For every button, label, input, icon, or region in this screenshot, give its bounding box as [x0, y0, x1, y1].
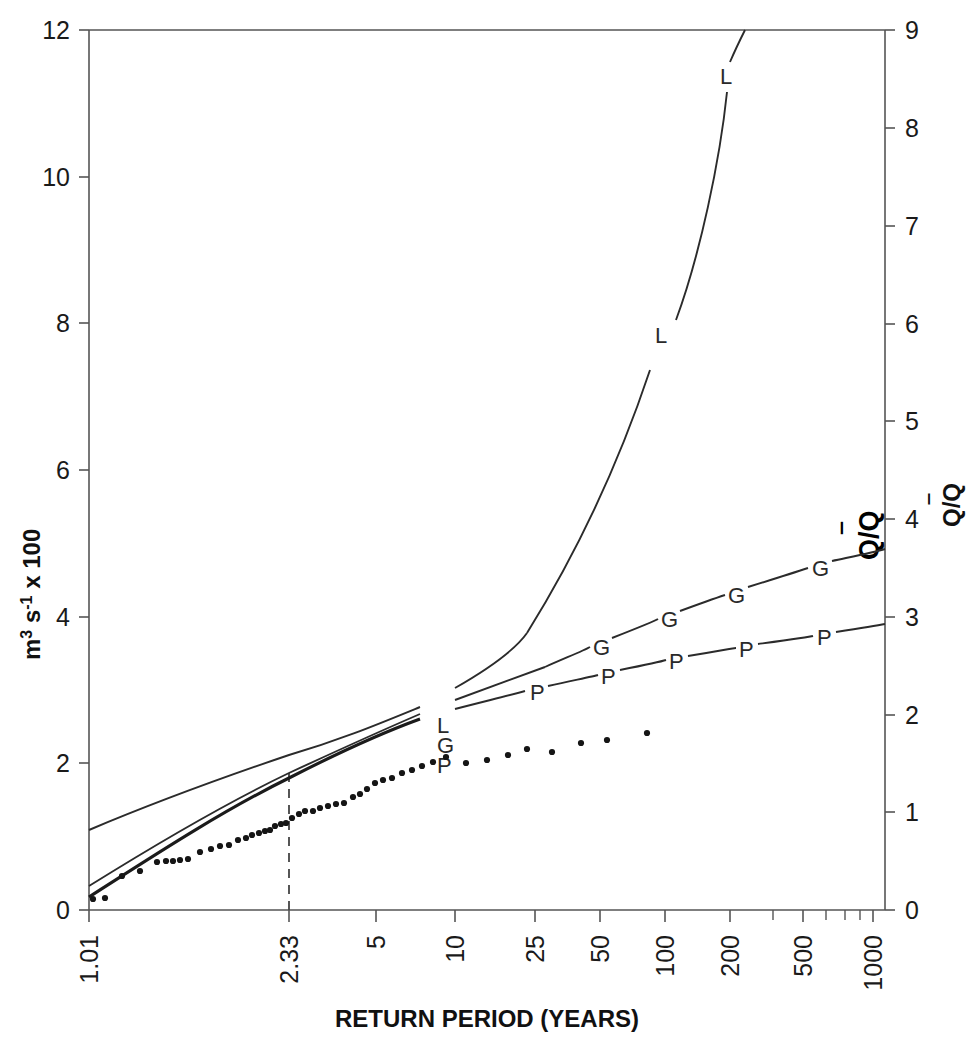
- x-axis-labels: 1.01 2.33 5 10 25 50 100 200 500 1000: [75, 935, 887, 991]
- ytick-right-4: 4: [905, 505, 919, 533]
- xtick-1.01: 1.01: [75, 935, 103, 984]
- y-axis-left-labels: 0 2 4 6 8 10 12: [42, 16, 70, 924]
- y-axis-left-title: m3 s-1 x 100: [18, 529, 46, 660]
- xtick-5: 5: [362, 935, 390, 949]
- ytick-right-7: 7: [905, 212, 919, 240]
- inner-ratio-label: Q/Q‾: [839, 510, 884, 560]
- y-axis-right-title: Q/Q‾: [925, 483, 965, 527]
- curve-label-G-3: G: [661, 607, 678, 632]
- ytick-right-6: 6: [905, 310, 919, 338]
- curve-label-P-2: P: [530, 680, 545, 705]
- ytick-right-5: 5: [905, 407, 919, 435]
- ytick-left-6: 6: [56, 456, 70, 484]
- ytick-left-4: 4: [56, 603, 70, 631]
- ytick-right-0: 0: [905, 896, 919, 924]
- ytick-right-1: 1: [905, 798, 919, 826]
- curve-label-P-3: P: [601, 664, 616, 689]
- curve-label-P-5: P: [739, 637, 754, 662]
- ytick-right-8: 8: [905, 114, 919, 142]
- ytick-right-9: 9: [905, 16, 919, 44]
- xtick-50: 50: [586, 935, 614, 963]
- ytick-right-2: 2: [905, 701, 919, 729]
- y-axis-right-title-text: Q/Q‾: [925, 483, 965, 527]
- observation-points: [90, 730, 650, 902]
- curve-label-P-4: P: [669, 649, 684, 674]
- curve-G: G G G G G: [89, 549, 885, 886]
- curve-label-L-2: L: [655, 323, 667, 348]
- curve-label-L-3: L: [720, 64, 732, 89]
- xtick-1000: 1000: [859, 935, 887, 991]
- xtick-10: 10: [441, 935, 469, 963]
- y-axis-right-labels: 0 1 2 3 4 5 6 7 8 9: [905, 16, 919, 924]
- ytick-left-0: 0: [56, 896, 70, 924]
- ytick-left-2: 2: [56, 749, 70, 777]
- y-axis-left-ticks: [79, 30, 89, 910]
- curve-label-G-4: G: [728, 583, 745, 608]
- ytick-left-8: 8: [56, 309, 70, 337]
- xtick-2.33: 2.33: [275, 935, 303, 984]
- xtick-25: 25: [521, 935, 549, 963]
- inner-ratio-label-text: Q/Q‾: [839, 510, 884, 560]
- flood-frequency-chart: 0 2 4 6 8 10 12 0 1 2 3 4 5 6 7 8 9: [0, 0, 976, 1045]
- x-axis-ticks: [89, 910, 873, 922]
- y-axis-left-title-text: m3 s-1 x 100: [18, 529, 46, 660]
- ytick-left-12: 12: [42, 16, 70, 44]
- xtick-500: 500: [789, 935, 817, 977]
- curve-L: L L L: [89, 30, 745, 830]
- x-axis-title: RETURN PERIOD (YEARS): [335, 1005, 639, 1032]
- y-axis-right-ticks: [885, 30, 895, 910]
- ytick-left-10: 10: [42, 163, 70, 191]
- ytick-right-3: 3: [905, 603, 919, 631]
- curve-label-G-5: G: [812, 556, 829, 581]
- xtick-100: 100: [651, 935, 679, 977]
- curve-label-P-6: P: [817, 625, 832, 650]
- chart-svg: 0 2 4 6 8 10 12 0 1 2 3 4 5 6 7 8 9: [0, 0, 976, 1045]
- xtick-200: 200: [716, 935, 744, 977]
- axis-frame: [89, 30, 885, 910]
- curve-label-G-2: G: [593, 635, 610, 660]
